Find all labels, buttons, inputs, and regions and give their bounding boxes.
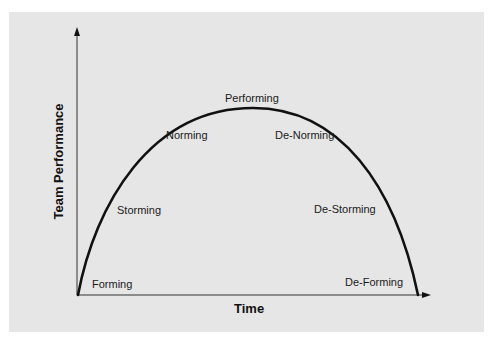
stage-label-storming: Storming bbox=[117, 204, 161, 216]
stage-label-forming: Forming bbox=[92, 278, 132, 290]
stage-label-de-forming: De-Forming bbox=[345, 276, 403, 288]
performance-curve-diagram bbox=[0, 0, 495, 339]
y-axis-arrow-icon bbox=[74, 27, 80, 36]
stage-label-norming: Norming bbox=[166, 129, 208, 141]
team-performance-curve bbox=[78, 108, 418, 295]
stage-label-de-norming: De-Norming bbox=[275, 129, 334, 141]
y-axis-title: Team Performance bbox=[51, 97, 66, 227]
stage-label-performing: Performing bbox=[225, 92, 279, 104]
x-axis-title: Time bbox=[234, 301, 264, 316]
x-axis-arrow-icon bbox=[422, 292, 431, 298]
stage-label-de-storming: De-Storming bbox=[314, 203, 376, 215]
